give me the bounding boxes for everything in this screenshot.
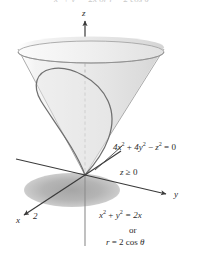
cylinder-equation-label: x2 + y2 = 2x [99, 211, 142, 220]
y-axis-label: y [174, 190, 178, 199]
z-axis-label: z [82, 9, 86, 18]
domain-relation: ≥ 0 [124, 167, 138, 177]
x-axis-label: x [16, 216, 20, 225]
polar-eq-equals: = 2 cos [110, 237, 141, 247]
ground-shadow-ellipse [24, 173, 120, 207]
cone-equation-label: 4x2 + 4y2 − z2 = 0 [113, 143, 176, 152]
domain-condition-label: z ≥ 0 [120, 168, 137, 177]
polar-equation-label: r = 2 cos θ [106, 238, 145, 247]
x-axis-tick-label: 2 [33, 212, 38, 221]
polar-eq-theta: θ [140, 237, 144, 247]
cone-eq-equals: = 0 [162, 142, 176, 152]
cyl-eq-plus: + [106, 210, 116, 220]
cone-rim-ellipse [18, 41, 164, 63]
cone-eq-minus: − [146, 142, 156, 152]
y-axis-negative [16, 159, 85, 175]
figure-container: x² + y² = 2x or r = 2 cos θ [0, 0, 203, 254]
cone-eq-term-a: 4x [113, 142, 122, 152]
cyl-eq-equals: = 2x [123, 210, 142, 220]
cone-eq-plus: + [125, 142, 135, 152]
cone-eq-term-b: 4y [134, 142, 143, 152]
conjunction-label: or [129, 226, 137, 235]
